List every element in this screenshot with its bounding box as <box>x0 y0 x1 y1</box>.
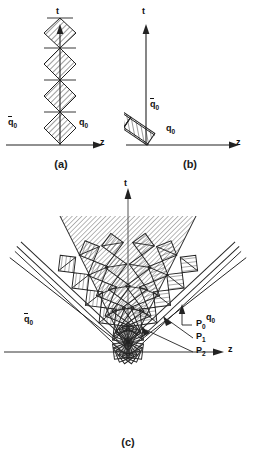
figure-root: t z q0 q0 (a) <box>0 0 256 464</box>
panel-c-p0-sub: 0 <box>202 323 206 330</box>
panel-a: t z q0 q0 <box>0 0 120 150</box>
panel-b-t-axis-label: t <box>142 6 145 16</box>
panel-c-q-sub: 0 <box>212 317 216 324</box>
panel-b-qbar-base: q <box>150 99 156 109</box>
panel-a-z-axis-label: z <box>100 137 105 147</box>
panel-c-pointer-p2: P2 <box>196 345 206 357</box>
panel-c-p2-sub: 2 <box>202 350 206 357</box>
panel-a-qbar-label: q0 <box>8 117 17 129</box>
panel-c-drawing <box>0 182 256 410</box>
panel-a-q-sub: 0 <box>85 122 89 129</box>
panel-b-qbar-label: q0 <box>150 99 159 111</box>
panel-b-q-sub: 0 <box>172 128 176 135</box>
panel-c-qbar-base: q <box>24 314 30 324</box>
panel-a-t-axis-label: t <box>56 6 59 16</box>
panel-c-p1-sub: 1 <box>202 336 206 343</box>
panel-c-qbar-label: q0 <box>24 314 33 326</box>
panel-b: t z q0 q0 <box>124 0 256 150</box>
panel-a-q-label: q0 <box>79 117 88 129</box>
panel-a-diamond-chain <box>44 18 76 144</box>
panel-a-caption: (a) <box>26 158 96 170</box>
panel-a-z-axis <box>6 142 103 149</box>
panel-a-drawing <box>0 0 120 150</box>
panel-c-z-axis-label: z <box>228 344 233 354</box>
panel-c-qbar-sub: 0 <box>30 319 34 326</box>
panel-a-qbar-base: q <box>8 117 14 127</box>
panel-b-z-axis-label: z <box>236 137 241 147</box>
panel-c-caption: (c) <box>93 436 163 448</box>
panel-c-t-axis-label: t <box>124 178 127 188</box>
panel-a-qbar-sub: 0 <box>14 122 18 129</box>
panel-c-q-label: q0 <box>206 312 215 324</box>
panel-c: t z q0 q0 P0 P1 P2 <box>0 182 256 410</box>
panel-b-caption: (b) <box>155 158 225 170</box>
panel-c-pointer-p0: P0 <box>196 318 206 330</box>
panel-b-qbar-sub: 0 <box>156 104 160 111</box>
panel-b-drawing <box>124 0 256 150</box>
panel-c-pointer-p1: P1 <box>196 331 206 343</box>
panel-b-q-label: q0 <box>166 123 175 135</box>
